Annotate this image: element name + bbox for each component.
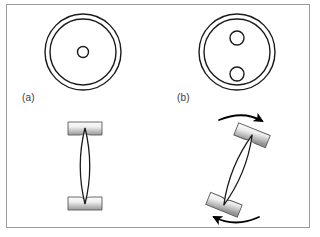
lower-bore (230, 67, 244, 81)
axial-ring-view-b (199, 14, 275, 90)
figure-root: (a) (b) (0, 0, 320, 237)
figure-canvas (0, 0, 320, 237)
lens-element (219, 133, 256, 207)
panel-caption-a: (a) (22, 92, 35, 103)
lens-element (80, 128, 90, 204)
center-bore (78, 47, 89, 58)
lens-assembly-vertical (68, 122, 102, 210)
panel-caption-b: (b) (177, 92, 190, 103)
upper-bore (230, 31, 244, 45)
axial-ring-view-a (45, 14, 121, 90)
lens-assembly-tilted (206, 123, 270, 217)
top-rotation-arrow (219, 115, 262, 121)
bottom-rotation-arrow (214, 217, 259, 223)
